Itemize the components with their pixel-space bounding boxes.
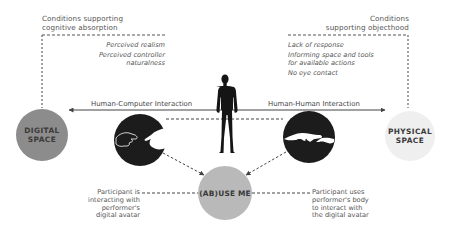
condition-perceived-realism: Perceived realism [70, 41, 165, 49]
right-conditions-title: Conditions supporting objecthood [300, 14, 409, 32]
left-note-line4: digital avatar [80, 212, 140, 220]
right-note: Participant uses performer's body to int… [312, 189, 392, 220]
digital-space-label-line2: SPACE [16, 135, 68, 144]
condition-informing-space-line2: for available actions [288, 59, 408, 67]
physical-space-label-line1: PHYSICAL [383, 127, 437, 136]
digital-space-label-line1: DIGITAL [16, 126, 68, 135]
right-conditions-list: Lack of response Informing space and too… [288, 41, 408, 77]
digital-space-label: DIGITAL SPACE [16, 126, 68, 144]
right-note-line4: the digital avatar [312, 212, 392, 220]
left-conditions-title: Conditions supporting cognitive absorpti… [42, 14, 123, 32]
condition-lack-of-response: Lack of response [288, 41, 408, 49]
condition-controller-naturalness-line1: Perceived controller [70, 51, 165, 59]
physical-space-label: PHYSICAL SPACE [383, 127, 437, 145]
left-conditions-list: Perceived realism Perceived controller n… [70, 41, 165, 67]
hci-label: Human-Computer Interaction [91, 100, 192, 108]
abuse-me-label: (AB)USE ME [198, 189, 252, 198]
hands-touching-physical-icon [283, 111, 335, 163]
human-silhouette-icon [216, 74, 238, 153]
dashed-arrow-right-to-center [246, 152, 286, 175]
right-conditions-title-line2: supporting objecthood [300, 23, 409, 32]
hhi-label: Human-Human Interaction [268, 100, 360, 108]
hands-touching-digital-icon [114, 114, 166, 166]
dashed-arrow-left-to-center [163, 153, 204, 175]
left-conditions-title-line1: Conditions supporting [42, 14, 123, 23]
left-note: Participant is interacting with performe… [80, 189, 140, 220]
physical-space-label-line2: SPACE [383, 136, 437, 145]
condition-controller-naturalness-line2: naturalness [70, 59, 165, 67]
condition-informing-space-line1: Informing space and tools [288, 51, 408, 59]
right-conditions-title-line1: Conditions [300, 14, 409, 23]
left-conditions-title-line2: cognitive absorption [42, 23, 123, 32]
condition-no-eye-contact: No eye contact [288, 69, 408, 77]
